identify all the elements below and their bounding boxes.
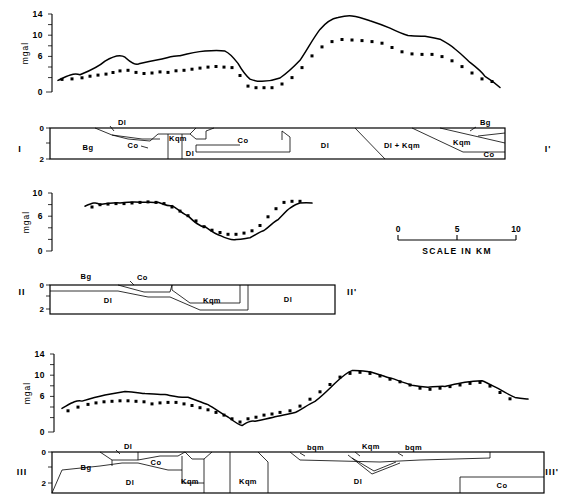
- section-1-unit-kqm-right: Kqm: [453, 138, 471, 147]
- profile-3-ylabel: mgal: [22, 382, 32, 404]
- profile-1-ytick-label-6: 6: [38, 51, 43, 61]
- section-1-unit-dl-top: Dl: [118, 118, 126, 127]
- section-2-leader-co: [130, 281, 134, 285]
- section-1-unit-bg: Bg: [83, 143, 94, 152]
- profile-2-ylabel: mgal: [21, 211, 31, 233]
- profile-1-ytick-label-10: 10: [33, 30, 43, 40]
- profile-1-graph: 14 10 6 0 mgal: [20, 9, 500, 97]
- section-1-unit-dl-right: Dl: [321, 141, 329, 150]
- section-3-end-label: III': [545, 467, 559, 477]
- profile-3-ytick-label-14: 14: [35, 349, 45, 359]
- section-2-frame: [50, 285, 335, 314]
- section-3-leader-bqm-right: [398, 453, 403, 456]
- section-3-depth-0: 0: [42, 448, 47, 457]
- section-3-leader-kqm: [355, 452, 360, 456]
- profile-2-graph: 10 6 0 mgal: [21, 188, 312, 256]
- section-1-unit-co-mid: Co: [238, 136, 249, 145]
- section-1-contacts: [95, 128, 505, 159]
- section-2-unit-dl-left: Dl: [104, 296, 112, 305]
- scale-bar-label-0: 0: [396, 224, 401, 234]
- section-2-unit-co: Co: [137, 273, 148, 282]
- section-2-unit-bg: Bg: [81, 272, 92, 281]
- profile-2-curve: [85, 202, 312, 240]
- section-3-unit-dl-right: Dl: [354, 477, 362, 486]
- profile-2-data-points: [91, 200, 302, 236]
- section-2-depth-2: 2: [40, 305, 45, 314]
- cross-section-2: II II' 0 2 Bg Co Dl Kqm Dl: [18, 272, 357, 314]
- section-1-depth-0: 0: [40, 124, 45, 133]
- section-3-unit-co-right: Co: [497, 481, 508, 490]
- scale-bar-caption: SCALE IN KM: [422, 246, 492, 256]
- profile-3-ytick-label-10: 10: [35, 370, 45, 380]
- profile-1-ytick-label-0: 0: [38, 87, 43, 97]
- section-1-unit-co-left: Co: [128, 141, 139, 150]
- section-2-start-label: II: [18, 287, 25, 297]
- section-2-end-label: II': [347, 287, 357, 297]
- cross-section-3: III III' 0 2: [17, 442, 559, 493]
- section-3-unit-kqm-mid: Kqm: [239, 477, 257, 486]
- gravity-profiles-figure: 14 10 6 0 mgal: [0, 0, 578, 502]
- profile-2-ytick-label-0: 0: [38, 246, 43, 256]
- section-3-start-label: III: [17, 467, 28, 477]
- profile-3-ytick-label-0: 0: [40, 427, 45, 437]
- profile-1-data-points: [61, 38, 494, 89]
- section-1-end-label: I': [545, 144, 552, 154]
- section-3-unit-dl-left: Dl: [126, 478, 134, 487]
- section-3-unit-kqm-left: Kqm: [181, 477, 199, 486]
- profile-1-ytick-label-14: 14: [33, 9, 43, 19]
- section-1-frame: [50, 128, 505, 159]
- scale-bar: 0 5 10 SCALE IN KM: [396, 224, 521, 256]
- profile-3-data-points: [67, 371, 512, 424]
- section-1-start-label: I: [18, 144, 22, 154]
- section-3-depth-2: 2: [42, 479, 47, 488]
- section-2-unit-dl-right: Dl: [284, 295, 292, 304]
- section-3-unit-bqm-left: bqm: [307, 443, 324, 452]
- profile-1-ylabel: mgal: [20, 42, 30, 64]
- profile-3-curve: [62, 371, 528, 426]
- section-3-leader-bqm-left: [300, 453, 305, 456]
- section-1-depth-2: 2: [40, 155, 45, 164]
- section-3-unit-co-left: Co: [151, 458, 162, 467]
- section-1-unit-dl-kqm: Dl + Kqm: [384, 141, 420, 150]
- scale-bar-label-10: 10: [511, 224, 521, 234]
- section-2-unit-kqm: Kqm: [203, 296, 221, 305]
- figure-canvas: 14 10 6 0 mgal: [0, 0, 578, 502]
- section-3-unit-kqm-top: Kqm: [362, 442, 380, 451]
- section-1-unit-dl-mid: Dl: [186, 149, 194, 158]
- profile-2-ytick-label-10: 10: [33, 188, 43, 198]
- section-2-depth-0: 0: [40, 281, 45, 290]
- section-1-unit-bg-right: Bg: [480, 118, 491, 127]
- section-3-unit-bg: Bg: [81, 463, 92, 472]
- profile-2-ytick-label-6: 6: [38, 211, 43, 221]
- profile-1-curve: [58, 16, 500, 88]
- section-1-unit-co-right: Co: [484, 150, 495, 159]
- section-1-unit-kqm-left: Kqm: [169, 134, 187, 143]
- scale-bar-label-5: 5: [455, 224, 460, 234]
- profile-3-graph: 14 10 6 0 mgal: [22, 349, 528, 437]
- profile-3-ytick-label-6: 6: [40, 391, 45, 401]
- section-1-leader-co: [141, 146, 148, 148]
- section-3-unit-bqm-right: bqm: [405, 443, 422, 452]
- section-3-unit-dl-top: Dl: [124, 442, 132, 451]
- cross-section-1: I I' 0 2 Dl: [18, 118, 551, 164]
